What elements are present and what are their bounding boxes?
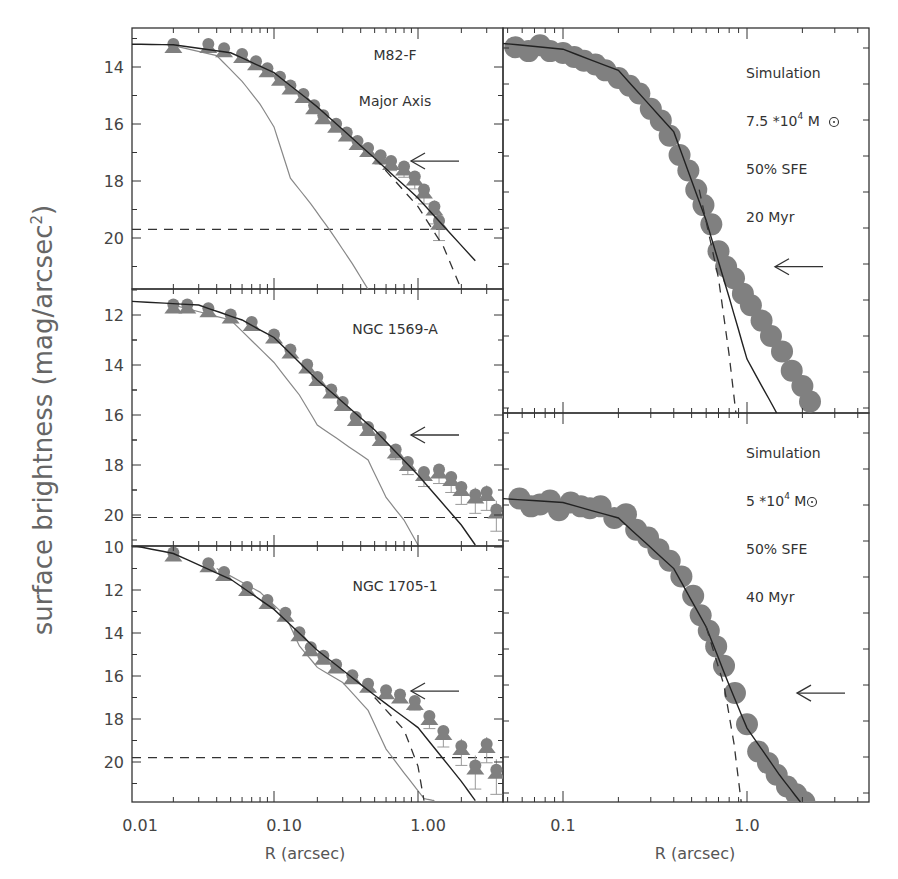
sun-symbol-icon [833,121,835,123]
panel-frame [132,28,503,289]
data-point-marker [466,762,484,774]
y-tick-label: 18 [104,172,124,191]
panel-label: 20 Myr [746,209,795,225]
y-tick-label: 20 [104,229,124,248]
surface-brightness-profiles-chart: M82-FMajor Axis14161820NGC 1569-A1214161… [0,0,898,879]
panel-label: 5 *104 M [746,491,806,509]
data-point-marker [700,213,722,235]
panel-label: M82-F [374,47,417,63]
data-point-marker [771,340,793,362]
y-axis-title: surface brightness (mag/arcsec2) [28,205,58,635]
y-tick-label: 14 [104,58,124,77]
panel-label: 7.5 *104 M [746,111,820,129]
data-point-marker [736,713,758,735]
y-tick-label: 16 [104,667,124,686]
panel-label: Major Axis [359,93,431,109]
x-axis-title: R (arcsec) [655,844,736,863]
panel-frame [132,289,503,546]
psf-profile-line [217,569,435,801]
panel-label: NGC 1705-1 [352,578,437,594]
y-tick-label: 12 [104,306,124,325]
labels: M82-FMajor Axis14161820NGC 1569-A1214161… [28,47,839,863]
y-tick-label: 20 [104,506,124,525]
plot-content [130,34,845,813]
data-point-marker [415,186,433,198]
panel-frame [503,413,869,802]
panel-sim-5e4-40myr [503,488,816,813]
king-fit-line [130,301,475,545]
arrow-icon [797,685,845,701]
axis-ticks [132,28,869,802]
y-tick-label: 16 [104,115,124,134]
data-point-marker [406,698,424,710]
data-point-marker [420,713,438,725]
x-tick-label: 1.0 [734,816,759,835]
data-point-marker [434,728,452,740]
panel-label: 50% SFE [746,541,807,557]
psf-profile-line [173,46,368,290]
x-tick-label: 0.10 [266,816,302,835]
y-tick-label: 20 [104,753,124,772]
data-point-marker [258,597,276,609]
data-point-marker [478,741,496,753]
panel-label: Simulation [746,65,821,81]
x-tick-label: 0.01 [122,816,158,835]
panel-label: Simulation [746,445,821,461]
panel-frame [503,28,869,413]
panel-label: 40 Myr [746,589,795,605]
y-tick-label: 10 [104,538,124,557]
sun-symbol-icon [811,501,813,503]
panel-label: NGC 1569-A [352,321,438,337]
y-tick-label: 16 [104,406,124,425]
y-tick-label: 14 [104,356,124,375]
y-tick-label: 12 [104,581,124,600]
y-tick-label: 18 [104,456,124,475]
y-tick-label: 14 [104,624,124,643]
y-tick-label: 18 [104,710,124,729]
panel-m82-f [130,38,503,289]
arrow-icon [775,259,823,275]
data-point-marker [452,743,470,755]
arrow-icon [411,153,459,169]
data-point-marker [793,791,815,813]
panel-ngc1705-1 [130,545,505,801]
king-fit-line [130,44,475,261]
psf-profile-line [173,305,418,545]
x-axis-title: R (arcsec) [265,844,346,863]
x-tick-label: 1.00 [410,816,446,835]
panel-label: 50% SFE [746,161,807,177]
x-tick-label: 0.1 [550,816,575,835]
arrow-icon [411,427,459,443]
data-point-marker [377,687,395,699]
data-point-marker [334,399,352,411]
panel-ngc1569-a [130,299,505,546]
